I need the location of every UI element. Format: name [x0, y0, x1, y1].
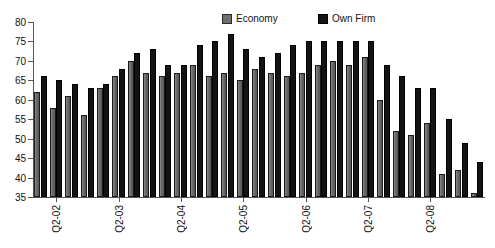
bar-chart: Economy Own Firm 35404550556065707580 Q2…: [0, 0, 495, 248]
plot-area: 35404550556065707580: [33, 22, 485, 197]
bar-economy: [471, 193, 477, 197]
x-axis-labels: Q2-02Q2-03Q2-04Q2-05Q2-06Q2-07Q2-08: [33, 198, 485, 248]
bar-economy: [50, 108, 56, 197]
bar-economy: [34, 92, 40, 197]
bar-own-firm: [103, 84, 109, 197]
bar-own-firm: [134, 53, 140, 197]
bar-own-firm: [212, 41, 218, 197]
bar-own-firm: [430, 88, 436, 197]
bar-own-firm: [72, 84, 78, 197]
bar-economy: [284, 76, 290, 197]
x-axis-tick-label: Q2-03: [114, 205, 125, 233]
bar-own-firm: [384, 65, 390, 197]
bar-own-firm: [446, 119, 452, 197]
bar-economy: [143, 73, 149, 197]
bar-own-firm: [150, 49, 156, 197]
x-axis-tick-label: Q2-02: [51, 205, 62, 233]
bar-economy: [424, 123, 430, 197]
x-axis-tick: [430, 198, 431, 202]
y-axis-tick-label: 75: [15, 36, 26, 47]
bar-own-firm: [353, 41, 359, 197]
y-axis-tick: [28, 41, 33, 42]
bar-own-firm: [477, 162, 483, 197]
bar-own-firm: [337, 41, 343, 197]
x-axis-tick: [306, 198, 307, 202]
y-axis-tick-label: 45: [15, 153, 26, 164]
bar-economy: [237, 80, 243, 197]
bar-own-firm: [243, 49, 249, 197]
y-axis-tick: [28, 22, 33, 23]
x-axis-tick: [119, 198, 120, 202]
bar-own-firm: [181, 65, 187, 197]
y-axis-tick: [28, 119, 33, 120]
x-axis-tick: [243, 198, 244, 202]
bar-own-firm: [306, 41, 312, 197]
bar-own-firm: [275, 53, 281, 197]
y-axis-tick: [28, 158, 33, 159]
y-axis-tick-label: 80: [15, 17, 26, 28]
x-axis-tick: [181, 198, 182, 202]
x-axis-tick: [368, 198, 369, 202]
bar-economy: [346, 65, 352, 197]
y-axis-tick-label: 55: [15, 114, 26, 125]
bar-economy: [81, 115, 87, 197]
bar-own-firm: [56, 80, 62, 197]
bar-own-firm: [259, 57, 265, 197]
y-axis-tick: [28, 80, 33, 81]
bar-economy: [330, 61, 336, 197]
bar-own-firm: [165, 65, 171, 197]
y-axis-tick-label: 60: [15, 94, 26, 105]
bar-economy: [408, 135, 414, 197]
bar-economy: [268, 73, 274, 197]
bar-economy: [439, 174, 445, 197]
bar-economy: [362, 57, 368, 197]
bar-own-firm: [197, 45, 203, 197]
bar-economy: [174, 73, 180, 197]
bar-own-firm: [462, 143, 468, 197]
y-axis-tick: [28, 178, 33, 179]
bar-own-firm: [228, 34, 234, 197]
bar-own-firm: [119, 69, 125, 197]
bar-economy: [159, 76, 165, 197]
bar-own-firm: [415, 88, 421, 197]
bar-economy: [112, 76, 118, 197]
bar-economy: [97, 88, 103, 197]
bar-own-firm: [88, 88, 94, 197]
x-axis-tick-label: Q2-08: [425, 205, 436, 233]
bar-economy: [252, 69, 258, 197]
bar-economy: [377, 100, 383, 197]
bar-economy: [393, 131, 399, 197]
bar-own-firm: [290, 45, 296, 197]
x-axis-tick-label: Q2-07: [363, 205, 374, 233]
x-axis-tick-label: Q2-06: [301, 205, 312, 233]
bar-own-firm: [368, 41, 374, 197]
y-axis-tick-label: 70: [15, 55, 26, 66]
bar-economy: [299, 73, 305, 197]
y-axis-tick-label: 40: [15, 172, 26, 183]
y-axis-tick: [28, 139, 33, 140]
bar-economy: [65, 96, 71, 197]
x-axis-tick: [56, 198, 57, 202]
y-axis-tick: [28, 100, 33, 101]
bar-economy: [455, 170, 461, 197]
x-axis-tick-label: Q2-04: [176, 205, 187, 233]
bar-own-firm: [321, 41, 327, 197]
bar-economy: [190, 65, 196, 197]
bar-economy: [128, 61, 134, 197]
bar-own-firm: [41, 76, 47, 197]
y-axis-tick-label: 35: [15, 192, 26, 203]
bar-economy: [206, 76, 212, 197]
bar-economy: [221, 73, 227, 197]
y-axis-tick: [28, 61, 33, 62]
y-axis-tick-label: 50: [15, 133, 26, 144]
x-axis-tick-label: Q2-05: [238, 205, 249, 233]
bar-economy: [315, 65, 321, 197]
bar-own-firm: [399, 76, 405, 197]
y-axis-tick-label: 65: [15, 75, 26, 86]
